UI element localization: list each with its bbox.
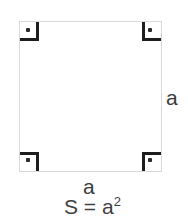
diagram-canvas: a a S = a2 — [0, 0, 188, 223]
right-angle-dot-icon — [148, 158, 152, 162]
right-angle-marker-top-right — [142, 22, 161, 41]
right-angle-dot-icon — [148, 28, 152, 32]
area-formula: S = a2 — [64, 196, 121, 217]
side-label-bottom: a — [83, 176, 95, 197]
right-angle-marker-bottom-right — [142, 152, 161, 171]
area-formula-base: S = a — [64, 195, 114, 218]
right-angle-dot-icon — [26, 28, 30, 32]
right-angle-marker-bottom-left — [20, 152, 39, 171]
right-angle-marker-top-left — [20, 22, 39, 41]
right-angle-dot-icon — [26, 158, 30, 162]
area-formula-exponent: 2 — [114, 194, 121, 209]
side-label-right: a — [166, 87, 178, 108]
square-outline — [19, 21, 162, 172]
